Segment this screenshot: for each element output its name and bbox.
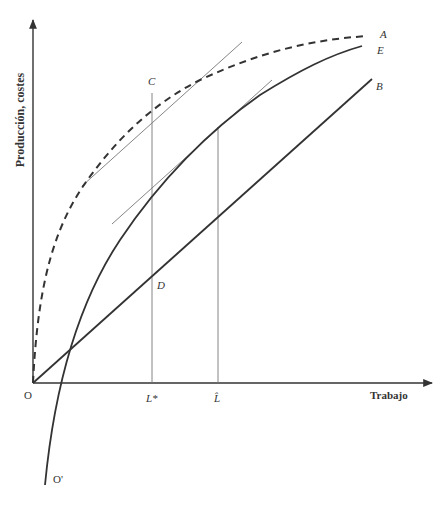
x-axis-label: Trabajo — [370, 389, 408, 401]
point-c-label: C — [148, 75, 156, 87]
l-star-tick-label: L* — [145, 392, 158, 404]
curve-e-solid — [45, 46, 362, 485]
origin-label: O — [24, 389, 32, 401]
curve-a-label: A — [379, 28, 387, 40]
diagram-canvas: Producción, costes Trabajo O O' A E B C … — [0, 0, 447, 505]
curve-a-dashed — [33, 36, 367, 383]
l-hat-tick-label: L̂ — [213, 392, 220, 404]
y-axis-label: Producción, costes — [13, 72, 27, 167]
line-b-label: B — [376, 80, 383, 92]
point-d-label: D — [156, 279, 165, 291]
curve-e-label: E — [376, 44, 384, 56]
line-b — [33, 79, 372, 383]
shifted-origin-label: O' — [53, 473, 63, 485]
